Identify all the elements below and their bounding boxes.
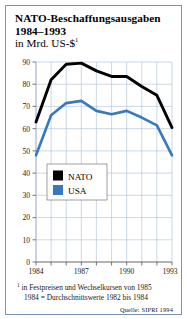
- chart-legend: NATO USA: [47, 164, 107, 200]
- chart-subtitle: in Mrd. US-$1: [15, 37, 177, 50]
- figure-frame: NATO-Beschaffungsausgaben 1984–1993 in M…: [5, 5, 182, 315]
- y-axis-tick-labels: 90 80 70 60 50 40 30 20 10 0: [22, 58, 30, 267]
- figure-container: NATO-Beschaffungsausgaben 1984–1993 in M…: [0, 0, 187, 319]
- source-attribution: Quelle: SIPRI 1994: [120, 306, 173, 314]
- page-title-line1: NATO-Beschaffungsausgaben: [15, 12, 177, 25]
- legend-swatch-nato: [53, 171, 63, 181]
- ytick-label-20: 20: [22, 213, 30, 222]
- chart-subtitle-text: in Mrd. US-$: [15, 37, 75, 49]
- page-title-line2: 1984–1993: [15, 25, 177, 38]
- chart-subtitle-footnote-marker: 1: [75, 36, 78, 43]
- xtick-label-1984: 1984: [28, 267, 43, 276]
- ytick-label-60: 60: [22, 125, 30, 134]
- legend-label-nato: NATO: [68, 172, 93, 182]
- footnote-block: 1 in Festpreisen und Wechselkursen von 1…: [17, 283, 177, 302]
- ytick-label-0: 0: [26, 258, 30, 267]
- ytick-label-70: 70: [22, 102, 30, 111]
- ytick-label-50: 50: [22, 147, 30, 156]
- ytick-label-80: 80: [22, 80, 30, 89]
- footnote-line-2: 1984 = Durchschnittswerte 1982 bis 1984: [17, 293, 177, 303]
- chart-title-block: NATO-Beschaffungsausgaben 1984–1993 in M…: [15, 12, 177, 50]
- legend-label-usa: USA: [68, 186, 87, 196]
- footnote-line-1: 1 in Festpreisen und Wechselkursen von 1…: [17, 283, 177, 293]
- ytick-label-40: 40: [22, 169, 30, 178]
- ytick-label-90: 90: [22, 58, 30, 67]
- xtick-label-1987: 1987: [74, 267, 89, 276]
- footnote-text-1: in Festpreisen und Wechselkursen von 198…: [22, 283, 152, 292]
- xtick-label-1990: 1990: [119, 267, 134, 276]
- line-chart-svg: 90 80 70 60 50 40 30 20 10 0: [6, 54, 181, 276]
- footnote-marker: 1: [17, 282, 20, 288]
- ytick-label-30: 30: [22, 191, 30, 200]
- chart-plot-area: 90 80 70 60 50 40 30 20 10 0: [6, 54, 181, 276]
- y-axis-ticks: [33, 62, 37, 262]
- x-axis-ticks: [36, 262, 172, 266]
- xtick-label-1993: 1993: [162, 267, 177, 276]
- ytick-label-10: 10: [22, 236, 30, 245]
- x-axis-tick-labels: 1984 1987 1990 1993: [28, 267, 177, 276]
- legend-swatch-usa: [53, 185, 63, 195]
